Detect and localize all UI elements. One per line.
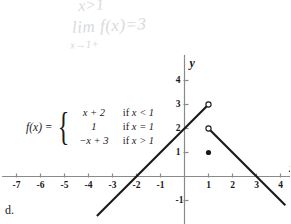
x-tick-label: 3 [247,180,267,190]
graph-line-segment [209,129,286,206]
y-tick-label: -1 [168,195,184,205]
x-tick-label: -3 [103,180,123,190]
x-tick-label: 4 [271,180,291,190]
y-axis-label: y [190,56,195,71]
x-tick-label: 1 [199,180,219,190]
x-tick-label: -7 [7,180,27,190]
x-tick-label: -5 [55,180,75,190]
y-tick-label: 2 [169,123,181,133]
graph-canvas [0,0,290,224]
x-tick-label: 2 [223,180,243,190]
x-tick-label: -6 [31,180,51,190]
y-tick-label: 4 [169,75,181,85]
y-tick-label: 3 [169,99,181,109]
open-endpoint-marker [206,126,211,131]
y-tick-label: 1 [169,147,181,157]
x-tick-label: -4 [79,180,99,190]
x-axis-label: x [289,161,290,176]
filled-point-marker [206,150,211,155]
piecewise-graph: -7-6-5-4-3-2-11234-11234 x y [0,0,290,224]
open-endpoint-marker [206,102,211,107]
x-tick-label: -1 [151,180,171,190]
answer-choice-letter: d. [5,203,14,218]
graph-line-segment [97,105,209,217]
x-tick-label: -2 [127,180,147,190]
screenshot-root: x>1 lim f(x)=3 x→1+ f(x) = { x + 2 if x … [0,0,290,224]
